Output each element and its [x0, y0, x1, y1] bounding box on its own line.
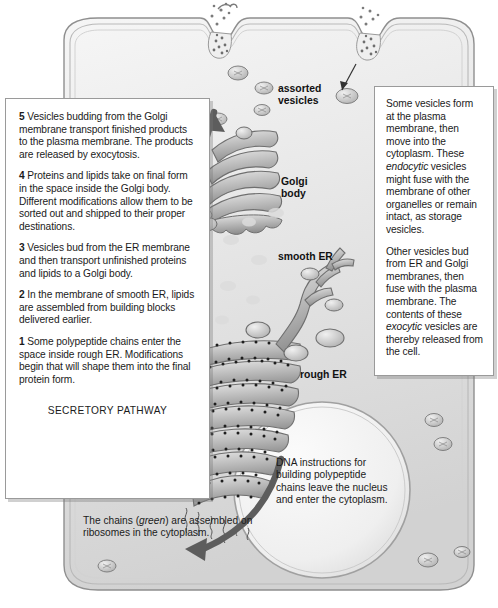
exocytic-paragraph: Other vesicles bud from ER and Golgi mem…	[386, 246, 484, 359]
step-1-paragraph: 1 Some polypeptide chains enter the spac…	[19, 336, 196, 386]
step-4-text: Proteins and lipids take on final form i…	[19, 170, 193, 231]
step-2-paragraph: 2 In the membrane of smooth ER, lipids a…	[19, 289, 196, 327]
label-golgi-line1: Golgi	[281, 176, 308, 188]
step-3-number: 3	[19, 242, 25, 253]
label-assorted-vesicles-line2: vesicles	[278, 95, 321, 107]
step-3-text: Vesicles bud from the ER membrane and th…	[19, 242, 190, 278]
vesicle-types-callout: Some vesicles form at the plasma membran…	[374, 86, 494, 376]
label-golgi-body: Golgi body	[281, 176, 308, 200]
step-5-text: Vesicles budding from the Golgi membrane…	[19, 111, 193, 160]
ribosome-caption-term: green	[139, 515, 165, 526]
exocytosis-vesicle-right	[357, 7, 381, 60]
released-particles-right	[360, 7, 380, 26]
secretory-pathway-callout: 5 Vesicles budding from the Golgi membra…	[5, 98, 210, 499]
label-golgi-line2: body	[281, 188, 308, 200]
step-5-paragraph: 5 Vesicles budding from the Golgi membra…	[19, 111, 196, 161]
step-4-paragraph: 4 Proteins and lipids take on final form…	[19, 170, 196, 233]
step-1-number: 1	[19, 336, 25, 347]
ribosome-caption-before: The chains (	[83, 515, 139, 526]
label-assorted-vesicles-line1: assorted	[278, 83, 321, 95]
step-2-text: In the membrane of smooth ER, lipids are…	[19, 289, 194, 325]
endocytic-text-after: vesicles might fuse with the membrane of…	[386, 161, 477, 235]
endocytic-term: endocytic	[386, 161, 428, 172]
exocytic-term: exocytic	[386, 321, 422, 332]
step-5-number: 5	[19, 111, 25, 122]
label-smooth-er: smooth ER	[278, 251, 333, 263]
secretory-pathway-label: SECRETORY PATHWAY	[19, 405, 196, 418]
nucleus-caption: DNA instructions for building polypeptid…	[276, 457, 396, 507]
cell-diagram-page: 5 Vesicles budding from the Golgi membra…	[0, 0, 498, 608]
label-assorted-vesicles: assorted vesicles	[278, 83, 321, 107]
step-3-paragraph: 3 Vesicles bud from the ER membrane and …	[19, 242, 196, 280]
endocytic-paragraph: Some vesicles form at the plasma membran…	[386, 98, 484, 237]
label-rough-er: rough ER	[300, 369, 347, 381]
ribosome-caption: The chains (green) are assembled on ribo…	[83, 515, 258, 540]
exocytic-text-before: Other vesicles bud from ER and Golgi mem…	[386, 246, 477, 320]
endocytic-text-before: Some vesicles form at the plasma membran…	[386, 98, 473, 159]
step-1-text: Some polypeptide chains enter the space …	[19, 336, 190, 385]
step-2-number: 2	[19, 289, 25, 300]
step-4-number: 4	[19, 170, 25, 181]
